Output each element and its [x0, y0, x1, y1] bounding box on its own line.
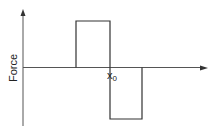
- y-axis-arrow-icon: [21, 9, 26, 16]
- positive-force-pulse: [76, 21, 110, 68]
- x-axis-arrow-icon: [200, 66, 208, 71]
- force-diagram: Force x0: [0, 0, 219, 137]
- x0-label: x0: [107, 69, 118, 83]
- x0-subscript: 0: [113, 74, 118, 83]
- y-axis-label: Force: [7, 54, 19, 82]
